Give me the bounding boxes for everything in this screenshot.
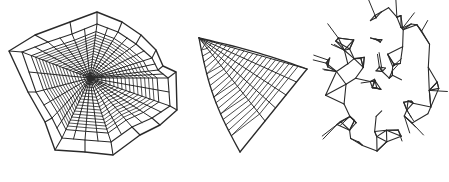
web-drawing-canvas <box>0 0 449 182</box>
cobweb <box>313 0 447 151</box>
triangle-web <box>199 38 307 152</box>
orb-web <box>9 12 177 155</box>
spider-webs-illustration: Three spider web types: orb web, triangl… <box>0 0 449 182</box>
